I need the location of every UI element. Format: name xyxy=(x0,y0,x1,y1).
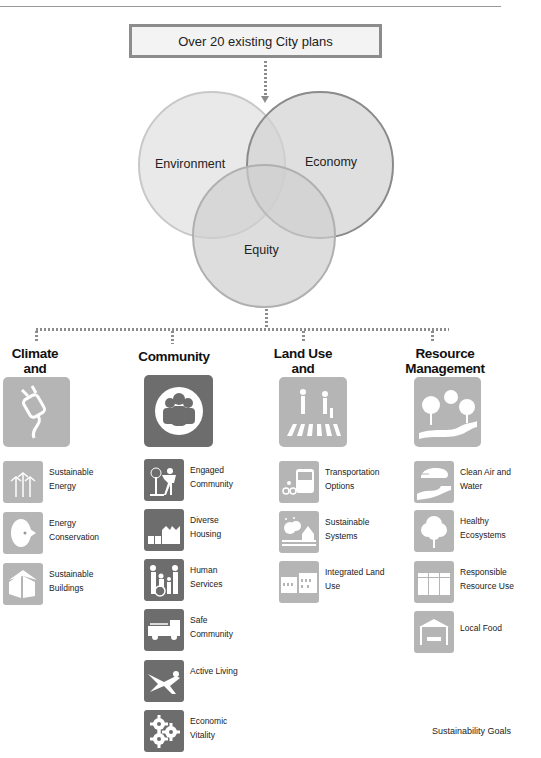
venn-diagram xyxy=(0,0,541,320)
goal-label: Human Services xyxy=(190,563,254,591)
wind-turbines-icon xyxy=(3,461,43,503)
person-planting-tree-icon xyxy=(144,459,184,501)
goal-energy-conservation: Energy Conservation xyxy=(3,512,113,554)
goal-label-line: Conservation xyxy=(49,530,113,544)
swimmer-icon xyxy=(144,660,184,702)
goal-healthy-ecosystems: Healthy Ecosystems xyxy=(414,510,524,552)
connector-horizontal xyxy=(35,328,449,331)
column-title-line: Climate and xyxy=(0,346,70,376)
goal-label-line: Clean Air and xyxy=(460,465,534,479)
goal-label: Local Food xyxy=(460,621,524,635)
goal-safe-community: Safe Community xyxy=(144,609,254,651)
goal-label-line: Safe xyxy=(190,613,254,627)
goal-label: Safe Community xyxy=(190,613,254,641)
goal-label: Sustainable Systems xyxy=(325,515,389,543)
fire-truck-icon xyxy=(144,609,184,651)
connector-landuse xyxy=(302,330,305,342)
goal-responsible-resource-use: Responsible Resource Use xyxy=(414,561,536,603)
goal-label-line: Responsible xyxy=(460,565,536,579)
goal-sustainable-buildings: Sustainable Buildings xyxy=(3,563,113,605)
goal-label: Engaged Community xyxy=(190,463,254,491)
goal-label-line: Active Living xyxy=(190,664,254,678)
goal-label-line: Transportation xyxy=(325,465,395,479)
family-wheelchair-icon xyxy=(144,559,184,601)
column-title-line: Community xyxy=(134,349,214,364)
goal-label-line: Energy xyxy=(49,479,113,493)
tree-icon xyxy=(414,510,454,552)
column-title-community: Community xyxy=(134,349,214,364)
goal-label-line: Buildings xyxy=(49,581,113,595)
goal-label-line: Ecosystems xyxy=(460,528,524,542)
goal-label: Active Living xyxy=(190,664,254,678)
goal-label: Clean Air and Water xyxy=(460,465,534,493)
venn-label-equity: Equity xyxy=(244,243,279,257)
buildings-icon xyxy=(279,561,319,603)
plug-icon xyxy=(3,377,70,447)
goal-human-services: Human Services xyxy=(144,559,254,601)
market-tent-icon xyxy=(414,611,454,653)
goal-label-line: Sustainable xyxy=(325,515,389,529)
goal-sustainable-energy: Sustainable Energy xyxy=(3,461,113,503)
goal-integrated-land-use: Integrated Land Use xyxy=(279,561,395,603)
connector-climate xyxy=(35,330,38,342)
column-title-line: Land Use xyxy=(268,346,338,361)
goal-label-line: Options xyxy=(325,479,395,493)
goal-label: Integrated Land Use xyxy=(325,565,395,593)
goal-label-line: Sustainable xyxy=(49,465,113,479)
house-icon xyxy=(3,563,43,605)
goal-label-line: Systems xyxy=(325,529,389,543)
recycling-bins-icon xyxy=(414,561,454,603)
venn-label-economy: Economy xyxy=(305,155,357,169)
venn-label-environment: Environment xyxy=(155,157,225,171)
goal-engaged-community: Engaged Community xyxy=(144,459,254,501)
goal-label: Energy Conservation xyxy=(49,516,113,544)
cloud-river-icon xyxy=(414,461,454,503)
goal-label-line: Community xyxy=(190,627,254,641)
goal-label-line: Use xyxy=(325,579,395,593)
goal-local-food: Local Food xyxy=(414,611,524,653)
goal-label-line: Engaged xyxy=(190,463,254,477)
goal-economic-vitality: Economic Vitality xyxy=(144,710,254,752)
figure-caption: Sustainability Goals xyxy=(432,726,511,736)
connector-community xyxy=(171,330,174,344)
bus-bicycle-icon xyxy=(279,461,319,503)
goal-label-line: Services xyxy=(190,577,254,591)
goal-label-line: Energy xyxy=(49,516,113,530)
goal-label-line: Water xyxy=(460,479,534,493)
goal-label: Transportation Options xyxy=(325,465,395,493)
goal-label-line: Human xyxy=(190,563,254,577)
goal-label-line: Sustainable xyxy=(49,567,113,581)
goal-sustainable-systems: Sustainable Systems xyxy=(279,511,389,553)
crosswalk-pedestrians-icon xyxy=(279,377,347,447)
people-group-icon xyxy=(144,375,213,447)
goal-label-line: Community xyxy=(190,477,254,491)
goal-label: Economic Vitality xyxy=(190,714,254,742)
goal-label: Sustainable Buildings xyxy=(49,567,113,595)
goal-label: Sustainable Energy xyxy=(49,465,113,493)
column-title-line: Resource xyxy=(400,346,490,361)
connector-venn-to-columns xyxy=(265,308,268,329)
column-title-line: Management xyxy=(400,361,490,376)
goal-label: Diverse Housing xyxy=(190,513,254,541)
gears-icon xyxy=(144,710,184,752)
goal-label-line: Integrated Land xyxy=(325,565,395,579)
venn-circle-equity xyxy=(193,165,335,307)
goal-label-line: Local Food xyxy=(460,621,524,635)
housing-icon xyxy=(144,509,184,551)
goal-label: Healthy Ecosystems xyxy=(460,514,524,542)
goal-diverse-housing: Diverse Housing xyxy=(144,509,254,551)
goal-label-line: Resource Use xyxy=(460,579,536,593)
goal-transportation-options: Transportation Options xyxy=(279,461,395,503)
connector-resource xyxy=(431,330,434,342)
goal-label: Responsible Resource Use xyxy=(460,565,536,593)
goal-clean-air-water: Clean Air and Water xyxy=(414,461,534,503)
goal-label-line: Economic xyxy=(190,714,254,728)
trees-path-icon xyxy=(414,377,481,447)
light-bulb-icon xyxy=(3,512,43,554)
goal-label-line: Housing xyxy=(190,527,254,541)
goal-label-line: Diverse xyxy=(190,513,254,527)
goal-label-line: Vitality xyxy=(190,728,254,742)
neighborhood-icon xyxy=(279,511,319,553)
column-title-resource-management: Resource Management xyxy=(400,346,490,376)
goal-label-line: Healthy xyxy=(460,514,524,528)
